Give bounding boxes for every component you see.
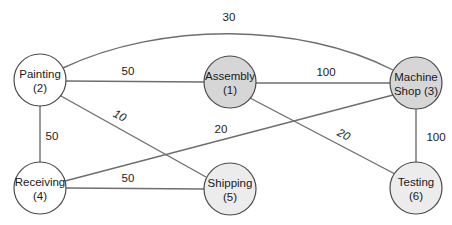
node-label: Shipping: [208, 177, 253, 189]
node-circle: [14, 54, 66, 106]
node-id: (5): [223, 191, 237, 203]
weight-receiving-shipping: 50: [122, 172, 135, 184]
edge-assembly-testing: [250, 98, 395, 174]
node-id: Shop (3): [394, 85, 438, 97]
weight-assembly-testing: 20: [334, 126, 352, 143]
node-id: (6): [409, 190, 423, 202]
node-id: (1): [223, 84, 237, 96]
node-label: Receiving: [15, 176, 66, 188]
node-receiving: Receiving (4): [14, 162, 66, 214]
node-id: (4): [33, 190, 47, 202]
node-machine-shop: Machine Shop (3): [390, 57, 442, 109]
edge-painting-assembly: [66, 81, 204, 82]
weight-assembly-machine-shop: 100: [316, 66, 335, 78]
node-label: Painting: [19, 68, 61, 80]
node-circle: [14, 162, 66, 214]
node-circle: [390, 162, 442, 214]
flow-diagram: 30 50 100 50 10 20 20 100 50 Assembly (1…: [0, 0, 452, 225]
weight-painting-shipping: 10: [111, 107, 128, 124]
weight-receiving-machine-shop: 20: [215, 123, 228, 135]
node-label: Assembly: [205, 70, 255, 82]
node-circle: [204, 56, 256, 108]
node-label: Testing: [398, 176, 434, 188]
node-circle: [390, 57, 442, 109]
node-assembly: Assembly (1): [204, 56, 256, 108]
weight-machine-shop-testing: 100: [426, 131, 445, 143]
edge-painting-shipping: [61, 96, 206, 177]
node-id: (2): [33, 82, 47, 94]
node-shipping: Shipping (5): [204, 163, 256, 215]
weight-painting-assembly: 50: [122, 65, 135, 77]
edge-receiving-shipping: [66, 188, 204, 189]
node-painting: Painting (2): [14, 54, 66, 106]
node-label: Machine: [394, 71, 437, 83]
weight-painting-machine-shop: 30: [223, 11, 236, 23]
node-circle: [204, 163, 256, 215]
node-testing: Testing (6): [390, 162, 442, 214]
weight-painting-receiving: 50: [46, 130, 59, 142]
